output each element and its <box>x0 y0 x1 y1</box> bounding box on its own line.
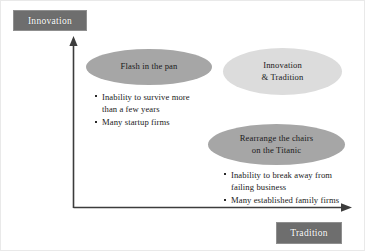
bubble-rearrange-chairs-titanic: Rearrange the chairs on the Titanic <box>208 124 345 165</box>
bullet-text: Inability to survive more than a few yea… <box>102 92 190 114</box>
list-item: Many established family firms <box>223 194 353 206</box>
bullet-text: Many established family firms <box>231 195 339 205</box>
bubble-flash-in-the-pan-line1: Flash in the pan <box>120 61 177 71</box>
bubble-rearrange-chairs-titanic-line1: Rearrange the chairs <box>240 133 314 143</box>
list-item: Inability to survive more than a few yea… <box>94 91 206 115</box>
innovation-tradition-matrix: Innovation Tradition Flash in the pan In… <box>0 0 365 251</box>
y-axis-label-box: Innovation <box>13 10 87 31</box>
x-axis-label-box: Tradition <box>276 222 342 244</box>
list-item: Many startup firms <box>94 116 206 128</box>
list-item: Inability to break away from failing bus… <box>223 169 353 193</box>
bullet-text: Many startup firms <box>102 117 170 127</box>
bullet-text: Inability to break away from failing bus… <box>231 170 332 192</box>
bubble-innovation-and-tradition-line2: & Tradition <box>261 72 303 82</box>
bubble-innovation-and-tradition-text: Innovation & Tradition <box>255 60 309 83</box>
bubble-rearrange-chairs-titanic-text: Rearrange the chairs on the Titanic <box>234 133 320 156</box>
y-axis-arrowhead <box>69 36 77 46</box>
bubble-flash-in-the-pan-text: Flash in the pan <box>114 61 183 73</box>
bubble-flash-in-the-pan: Flash in the pan <box>86 49 212 85</box>
x-axis-label-text: Tradition <box>290 228 328 238</box>
bubble-innovation-and-tradition-line1: Innovation <box>263 60 302 70</box>
bubble-rearrange-chairs-titanic-line2: on the Titanic <box>252 145 301 155</box>
bullet-list-rearrange-chairs-titanic: Inability to break away from failing bus… <box>223 169 353 208</box>
bullet-list-flash-in-the-pan: Inability to survive more than a few yea… <box>94 91 206 130</box>
y-axis-label-text: Innovation <box>28 16 72 26</box>
bubble-innovation-and-tradition: Innovation & Tradition <box>223 48 342 95</box>
